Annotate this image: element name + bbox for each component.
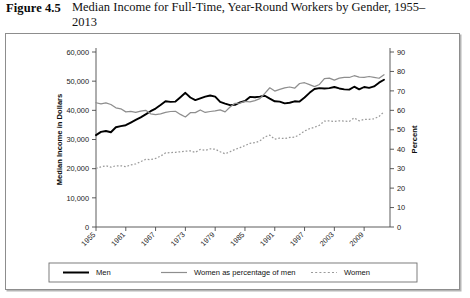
line-chart: 010,00020,00030,00040,00050,00060,000010… bbox=[6, 34, 461, 291]
x-tick-label: 1967 bbox=[139, 230, 157, 248]
y-axis-right-title: Percent bbox=[410, 125, 419, 153]
y-axis-left-title: Median Income in Dollars bbox=[55, 94, 64, 186]
figure-title: Median Income for Full-Time, Year-Round … bbox=[72, 0, 444, 29]
series-line bbox=[96, 80, 384, 135]
y-tick-label-left: 60,000 bbox=[66, 48, 89, 57]
y-tick-label-right: 10 bbox=[397, 203, 405, 212]
x-tick-label: 1985 bbox=[228, 230, 246, 248]
y-tick-label-right: 30 bbox=[397, 164, 405, 173]
y-tick-label-right: 60 bbox=[397, 106, 405, 115]
y-tick-label-right: 50 bbox=[397, 125, 405, 134]
y-tick-label-right: 90 bbox=[397, 48, 405, 57]
y-tick-label-left: 50,000 bbox=[66, 77, 89, 86]
y-tick-label-left: 30,000 bbox=[66, 135, 89, 144]
legend-label: Women bbox=[344, 268, 370, 277]
axes bbox=[92, 48, 394, 231]
x-tick-label: 1961 bbox=[109, 230, 127, 248]
x-tick-label: 2003 bbox=[318, 230, 336, 248]
x-tick-label: 1991 bbox=[258, 230, 276, 248]
x-tick-label: 1979 bbox=[199, 230, 217, 248]
y-tick-label-left: 10,000 bbox=[66, 194, 89, 203]
y-tick-label-right: 0 bbox=[397, 223, 401, 232]
y-tick-label-right: 70 bbox=[397, 87, 405, 96]
y-tick-label-right: 80 bbox=[397, 67, 405, 76]
x-tick-label: 1997 bbox=[288, 230, 306, 248]
x-tick-label: 1955 bbox=[79, 230, 97, 248]
legend-label: Men bbox=[96, 268, 111, 277]
legend-label: Women as percentage of men bbox=[194, 268, 296, 277]
figure-label: Figure 4.5 bbox=[6, 0, 61, 16]
figure-frame: 010,00020,00030,00040,00050,00060,000010… bbox=[5, 33, 460, 290]
y-tick-label-right: 20 bbox=[397, 184, 405, 193]
chart-legend: MenWomen as percentage of menWomen bbox=[49, 263, 417, 282]
y-tick-label-left: 20,000 bbox=[66, 164, 89, 173]
chart-canvas: 010,00020,00030,00040,00050,00060,000010… bbox=[6, 34, 461, 291]
y-tick-label-left: 0 bbox=[85, 223, 89, 232]
y-tick-label-left: 40,000 bbox=[66, 106, 89, 115]
series-line bbox=[96, 112, 384, 169]
series-line bbox=[96, 75, 384, 117]
figure-caption: Figure 4.5 Median Income for Full-Time, … bbox=[6, 0, 464, 29]
data-series bbox=[96, 75, 384, 169]
y-tick-label-right: 40 bbox=[397, 145, 405, 154]
x-tick-label: 1973 bbox=[169, 230, 187, 248]
x-tick-label: 2009 bbox=[348, 230, 366, 248]
